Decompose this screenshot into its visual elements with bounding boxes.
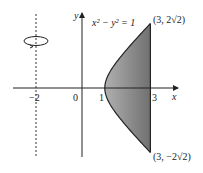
tick-zero: 0: [73, 92, 78, 103]
equation-label: x² − y² = 1: [91, 17, 135, 28]
x-axis-label: x: [171, 91, 177, 102]
tick-neg2: −2: [29, 92, 40, 103]
y-axis-label: y: [73, 10, 79, 21]
tick-one: 1: [99, 92, 104, 103]
point-top-label: (3, 2√2): [153, 14, 185, 26]
point-bottom-label: (3, −2√2): [153, 151, 191, 163]
tick-three: 3: [152, 92, 157, 103]
diagram: y x −2 0 1 3 x² − y² = 1 (3, 2√2) (3, −2…: [0, 0, 203, 173]
